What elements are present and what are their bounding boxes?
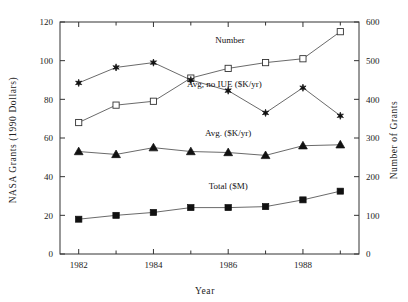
y2-tick-label: 100 bbox=[366, 211, 380, 221]
series-1 bbox=[76, 29, 344, 126]
data-point-filled-square bbox=[75, 216, 81, 222]
chart-container: 020406080100120 0100200300400500600 1982… bbox=[0, 0, 408, 302]
y2-axis-tick-labels: 0100200300400500600 bbox=[366, 17, 380, 259]
nasa-grants-line-chart: 020406080100120 0100200300400500600 1982… bbox=[0, 0, 408, 302]
y2-tick-label: 600 bbox=[366, 17, 380, 27]
x-tick-label: 1986 bbox=[219, 260, 238, 270]
data-point-filled-triangle bbox=[299, 141, 308, 149]
series-3 bbox=[74, 140, 344, 158]
data-point-filled-square bbox=[150, 209, 156, 215]
y2-tick-label: 500 bbox=[366, 56, 380, 66]
data-point-filled-triangle bbox=[149, 143, 158, 151]
data-point-star bbox=[337, 112, 343, 119]
x-axis-tick-labels: 1982198419861988 bbox=[70, 260, 313, 270]
data-point-filled-square bbox=[300, 197, 306, 203]
x-tick-label: 1982 bbox=[70, 260, 88, 270]
data-point-star bbox=[262, 109, 268, 116]
data-series-group bbox=[74, 29, 344, 223]
y-tick-label: 100 bbox=[40, 56, 54, 66]
data-point-open-square bbox=[225, 65, 231, 71]
data-point-open-square bbox=[150, 98, 156, 104]
y2-tick-label: 200 bbox=[366, 172, 380, 182]
data-point-filled-square bbox=[113, 212, 119, 218]
y2-tick-label: 300 bbox=[366, 133, 380, 143]
y-tick-label: 120 bbox=[40, 17, 54, 27]
data-point-open-square bbox=[262, 60, 268, 66]
x-tick-label: 1984 bbox=[144, 260, 163, 270]
y2-tick-label: 0 bbox=[366, 249, 371, 259]
y-axis-title: NASA Grants (1990 Dollars) bbox=[8, 77, 19, 204]
y-axis-tick-labels: 020406080100120 bbox=[40, 17, 54, 259]
series-4 bbox=[75, 188, 343, 222]
data-point-filled-square bbox=[337, 188, 343, 194]
data-point-open-square bbox=[300, 56, 306, 62]
data-point-open-square bbox=[113, 102, 119, 108]
y-tick-label: 40 bbox=[44, 172, 54, 182]
data-point-filled-triangle bbox=[224, 148, 233, 156]
y2-tick-label: 400 bbox=[366, 95, 380, 105]
data-point-filled-square bbox=[225, 205, 231, 211]
data-point-open-square bbox=[337, 29, 343, 35]
data-point-filled-triangle bbox=[336, 140, 345, 148]
x-tick-label: 1988 bbox=[294, 260, 313, 270]
series-line bbox=[79, 32, 341, 123]
data-point-filled-square bbox=[262, 204, 268, 210]
series-2 bbox=[76, 59, 344, 119]
data-point-open-square bbox=[76, 119, 82, 125]
series-label-3: Avg. ($K/yr) bbox=[205, 128, 251, 138]
data-point-filled-square bbox=[188, 205, 194, 211]
data-point-star bbox=[300, 84, 306, 91]
series-inline-labels: NumberAvg, no IUE ($K/yr)Avg. ($K/yr)Tot… bbox=[187, 35, 262, 191]
y-tick-label: 80 bbox=[44, 95, 54, 105]
y-tick-label: 60 bbox=[44, 133, 54, 143]
data-point-filled-triangle bbox=[74, 147, 83, 155]
y2-axis-title: Number of Grants bbox=[389, 101, 399, 180]
series-label-2: Avg, no IUE ($K/yr) bbox=[187, 79, 262, 89]
data-point-star bbox=[76, 79, 82, 86]
y-tick-label: 0 bbox=[49, 249, 54, 259]
series-label-1: Number bbox=[215, 35, 245, 45]
x-axis-title: Year bbox=[195, 286, 215, 296]
y-tick-label: 20 bbox=[44, 211, 54, 221]
series-label-4: Total ($M) bbox=[209, 181, 248, 191]
